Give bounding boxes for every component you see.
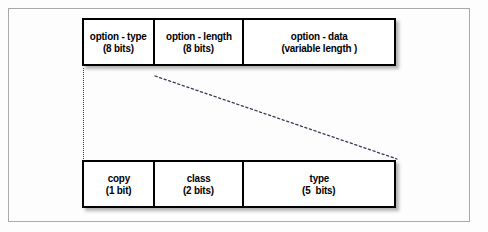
cell-type-size: (5 bits) — [302, 184, 335, 197]
cell-option-data-label: option - data — [291, 30, 348, 43]
cell-class-label: class — [187, 172, 211, 185]
cell-class: class (2 bits) — [155, 162, 244, 206]
vertical-dotted-line — [83, 68, 84, 159]
cell-copy: copy (1 bit) — [84, 162, 155, 206]
cell-option-length-label: option - length — [166, 30, 232, 43]
cell-type: type (5 bits) — [244, 162, 394, 206]
cell-option-type: option - type (8 bits) — [84, 20, 155, 64]
cell-type-label: type — [309, 172, 329, 185]
cell-option-data-size: (variable length ) — [281, 42, 357, 55]
cell-option-type-size: (8 bits) — [103, 42, 134, 55]
cell-copy-label: copy — [107, 172, 129, 185]
cell-option-type-label: option - type — [90, 30, 147, 43]
figure-container: option - type (8 bits) option - length (… — [0, 0, 488, 232]
option-type-detail-row: copy (1 bit) class (2 bits) type (5 bits… — [82, 160, 396, 208]
cell-option-length-size: (8 bits) — [183, 42, 214, 55]
option-format-row: option - type (8 bits) option - length (… — [82, 18, 396, 66]
cell-option-data: option - data (variable length ) — [244, 20, 394, 64]
cell-option-length: option - length (8 bits) — [155, 20, 244, 64]
cell-copy-size: (1 bit) — [106, 184, 132, 197]
cell-class-size: (2 bits) — [183, 184, 214, 197]
